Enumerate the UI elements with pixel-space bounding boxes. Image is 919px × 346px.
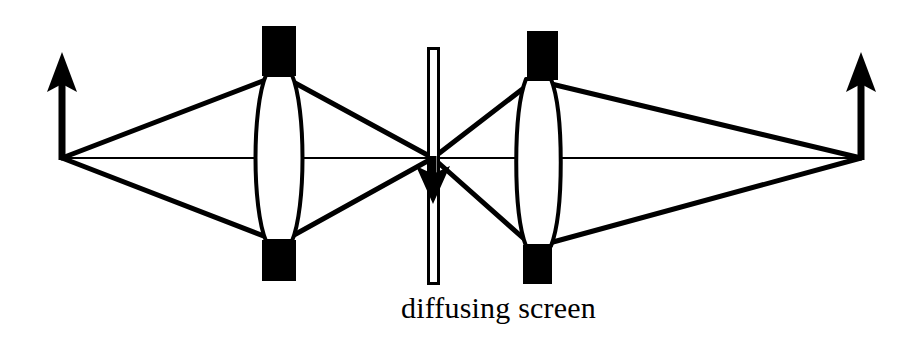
lens-left-body (256, 75, 303, 241)
lens-left-mount-bottom (262, 240, 296, 281)
lens-left-biconvex (256, 26, 303, 281)
lens-right-body (516, 79, 561, 246)
ray-bundle-right (433, 81, 861, 245)
ray-left-upper-incident (62, 76, 276, 158)
lens-right-biconvex (516, 31, 561, 284)
optical-diagram-figure: diffusing screen (0, 0, 919, 346)
ray-left-lower-refracted (285, 158, 433, 240)
ray-right-upper-refracted (543, 82, 861, 158)
diffusing-screen-caption-label: diffusing screen (401, 291, 596, 325)
final-image-arrow-upright (846, 52, 876, 160)
diffusing-screen-caption: diffusing screen (0, 291, 919, 325)
lens-right-mount-top (527, 31, 558, 80)
ray-left-upper-refracted (284, 77, 433, 158)
object-arrow-shaft (59, 82, 66, 160)
lens-left-mount-top (262, 26, 296, 76)
ray-left-lower-incident (62, 158, 274, 240)
object-arrow-upright (47, 52, 77, 160)
final-image-arrow-shaft (858, 82, 865, 160)
ray-right-lower-refracted (542, 158, 861, 245)
lens-right-mount-bottom (523, 245, 552, 284)
